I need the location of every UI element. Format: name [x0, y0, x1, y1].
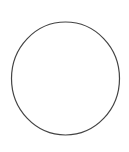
- background: [0, 0, 129, 152]
- diagram-canvas: [0, 0, 129, 152]
